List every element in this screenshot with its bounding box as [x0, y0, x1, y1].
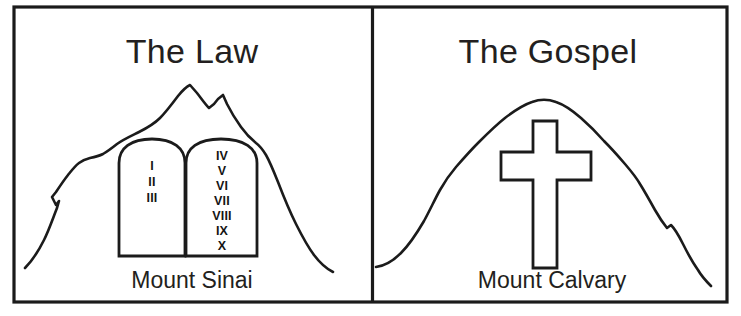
panel-law-heading: The Law: [126, 32, 259, 70]
figure-canvas: The Law I II III IV V VI VII VIII IX X: [0, 0, 741, 316]
numeral-i: I: [150, 159, 154, 173]
numeral-v: V: [218, 164, 227, 178]
numeral-vii: VII: [214, 194, 230, 208]
numeral-vi: VI: [216, 179, 228, 193]
numeral-x: X: [218, 239, 227, 253]
law-and-gospel-figure: The Law I II III IV V VI VII VIII IX X: [0, 0, 741, 316]
numeral-iv: IV: [216, 149, 229, 163]
panel-gospel-caption: Mount Calvary: [478, 267, 627, 293]
numeral-viii: VIII: [212, 209, 232, 223]
numeral-iii: III: [146, 191, 157, 205]
numeral-ix: IX: [216, 224, 229, 238]
numeral-ii: II: [148, 175, 155, 189]
panel-gospel-heading: The Gospel: [459, 32, 638, 70]
panel-law-caption: Mount Sinai: [131, 267, 252, 293]
